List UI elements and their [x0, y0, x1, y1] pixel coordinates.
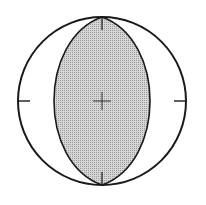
- beachball-diagram: [0, 0, 206, 205]
- diagram-canvas: [0, 0, 206, 205]
